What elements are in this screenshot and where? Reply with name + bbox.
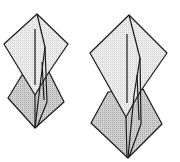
origami-diagram xyxy=(0,0,180,162)
fold-step-right xyxy=(90,15,167,158)
fold-step-left xyxy=(4,14,68,128)
upper-flap xyxy=(90,15,167,117)
upper-flap xyxy=(4,14,68,95)
